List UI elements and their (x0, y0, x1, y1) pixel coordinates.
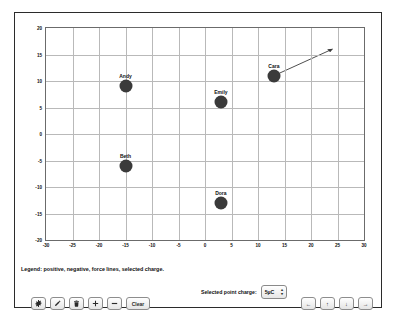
y-axis-tick-label: -5 (38, 158, 42, 163)
y-axis-tick-label: -15 (35, 211, 42, 216)
trash-icon (73, 300, 80, 307)
increase-button[interactable] (88, 297, 103, 310)
move-down-button[interactable]: ↓ (339, 297, 354, 310)
nav-button-group: ←↑↓→ (301, 297, 373, 310)
gear-icon (35, 300, 42, 307)
y-axis-tick-label: -20 (35, 238, 42, 243)
x-axis-tick-label: 15 (282, 243, 287, 248)
tool-button-group: Clear (31, 297, 150, 310)
delete-button[interactable] (69, 297, 84, 310)
charge-marker[interactable] (119, 80, 132, 93)
x-axis-tick-label: -5 (176, 243, 180, 248)
edit-button[interactable] (50, 297, 65, 310)
grid-line-horizontal (46, 108, 364, 109)
x-axis-tick-label: 20 (308, 243, 313, 248)
y-axis-tick-label: 0 (39, 132, 42, 137)
charge-label: Emily (214, 89, 227, 95)
settings-button[interactable] (31, 297, 46, 310)
legend: Legend: positive, negative, force lines,… (21, 265, 171, 273)
arrow-down-icon: ↓ (345, 301, 348, 307)
force-vector-arrow (274, 49, 332, 75)
x-axis-tick-label: 0 (204, 243, 207, 248)
grid-line-horizontal (46, 161, 364, 162)
chevron-updown-icon: ▴▾ (281, 288, 283, 297)
x-axis-tick-label: -15 (122, 243, 129, 248)
grid-line-horizontal (46, 81, 364, 82)
charge-marker[interactable] (119, 159, 132, 172)
y-axis-tick-label: 20 (37, 26, 42, 31)
x-axis-tick-label: 25 (335, 243, 340, 248)
charge-marker[interactable] (214, 196, 227, 209)
x-axis-tick-label: -10 (149, 243, 156, 248)
application-window: -30-25-20-15-10-505101520253020151050-5-… (14, 12, 382, 308)
y-axis-tick-label: 15 (37, 52, 42, 57)
grid-line-horizontal (46, 134, 364, 135)
y-axis-tick-label: 5 (39, 105, 42, 110)
x-axis-tick-label: 5 (230, 243, 233, 248)
x-axis-tick-label: 10 (255, 243, 260, 248)
charge-label: Andy (119, 73, 132, 79)
chart-container: -30-25-20-15-10-505101520253020151050-5-… (21, 19, 373, 261)
footer-controls: Legend: positive, negative, force lines,… (15, 263, 381, 307)
plus-icon (92, 300, 99, 307)
charge-select-value: 5µC (265, 289, 275, 295)
arrow-up-icon: ↑ (326, 301, 329, 307)
arrow-left-icon: ← (306, 301, 312, 307)
charge-marker[interactable] (214, 96, 227, 109)
charge-selector-label: Selected point charge: (201, 289, 257, 295)
y-axis-tick-label: 10 (37, 79, 42, 84)
grid-line-horizontal (46, 55, 364, 56)
y-axis-tick-label: -10 (35, 185, 42, 190)
charge-select[interactable]: 5µC ▴▾ (261, 285, 288, 299)
charge-label: Beth (120, 153, 131, 159)
x-axis-tick-label: -25 (69, 243, 76, 248)
charge-marker[interactable] (267, 69, 280, 82)
x-axis-tick-label: -20 (96, 243, 103, 248)
arrow-right-icon: → (363, 301, 369, 307)
minus-icon (111, 300, 118, 307)
move-up-button[interactable]: ↑ (320, 297, 335, 310)
x-axis-tick-label: 30 (361, 243, 366, 248)
clear-button-label: Clear (132, 301, 145, 307)
pencil-icon (54, 300, 61, 307)
charge-label: Dora (215, 190, 226, 196)
move-right-button[interactable]: → (358, 297, 373, 310)
clear-button[interactable]: Clear (126, 297, 150, 310)
charge-label: Cara (268, 63, 279, 69)
charge-selector-row: Selected point charge: 5µC ▴▾ (201, 285, 287, 299)
plot-area[interactable]: -30-25-20-15-10-505101520253020151050-5-… (45, 27, 365, 241)
grid-line-horizontal (46, 187, 364, 188)
x-axis-tick-label: -30 (43, 243, 50, 248)
move-left-button[interactable]: ← (301, 297, 316, 310)
grid-line-horizontal (46, 214, 364, 215)
decrease-button[interactable] (107, 297, 122, 310)
